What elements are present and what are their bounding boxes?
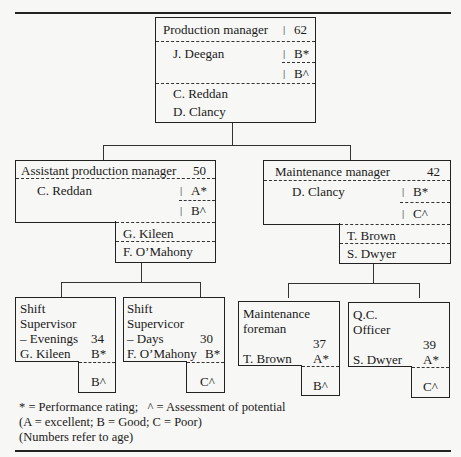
position-title-line: foreman bbox=[243, 321, 286, 336]
performance-rating: B* bbox=[91, 346, 106, 361]
position-title-line: Q.C. bbox=[353, 307, 378, 322]
connector bbox=[373, 264, 374, 283]
performance-rating: A* bbox=[313, 351, 329, 366]
performance-rating: B* bbox=[413, 184, 428, 199]
age: 34 bbox=[91, 331, 104, 346]
performance-rating: A* bbox=[191, 183, 207, 198]
connector bbox=[232, 123, 233, 146]
position-title-line: Maintenance bbox=[243, 306, 310, 321]
incumbent-name: D. Clancy bbox=[292, 184, 345, 199]
age: 30 bbox=[200, 331, 213, 346]
position-title-line: Supervisor bbox=[20, 316, 76, 331]
position-title-line: Shift bbox=[20, 301, 45, 316]
incumbent-name: T. Brown bbox=[243, 351, 292, 366]
age: 42 bbox=[427, 164, 440, 179]
connector bbox=[103, 145, 104, 161]
legend-scale: (A = excellent; B = Good; C = Poor) bbox=[19, 415, 202, 430]
position-title-line: – Days bbox=[127, 331, 163, 346]
successor-name: D. Clancy bbox=[173, 104, 226, 119]
potential-rating: B^ bbox=[191, 203, 206, 218]
connector bbox=[288, 283, 289, 298]
bottom-rule bbox=[15, 450, 451, 452]
age: 50 bbox=[193, 163, 206, 178]
successor-name: G. Kileen bbox=[123, 226, 174, 241]
position-title: Production manager bbox=[163, 22, 268, 37]
legend-symbols: * = Performance rating; ^ = Assessment o… bbox=[19, 400, 285, 415]
connector bbox=[350, 145, 351, 161]
position-title-line: Shift bbox=[127, 301, 152, 316]
age: 39 bbox=[423, 337, 436, 352]
position-title-line: – Evenings bbox=[20, 331, 78, 346]
age: 62 bbox=[294, 22, 307, 37]
connector bbox=[200, 282, 201, 298]
potential-rating: C^ bbox=[423, 379, 438, 394]
separator: | bbox=[180, 203, 182, 218]
position-title: Assistant production manager bbox=[21, 163, 176, 178]
incumbent-name: F. O’Mahony bbox=[127, 346, 197, 361]
position-title: Maintenance manager bbox=[275, 164, 390, 179]
incumbent-name: G. Kileen bbox=[20, 346, 71, 361]
incumbent-name: C. Reddan bbox=[37, 183, 92, 198]
successor-name: T. Brown bbox=[347, 228, 396, 243]
potential-rating: C^ bbox=[200, 374, 215, 389]
connector bbox=[288, 283, 420, 284]
performance-rating: A* bbox=[423, 352, 439, 367]
separator: | bbox=[180, 183, 182, 198]
potential-rating: B^ bbox=[91, 374, 106, 389]
successor-name: F. O’Mahony bbox=[123, 244, 193, 259]
successor-name: C. Reddan bbox=[173, 86, 228, 101]
position-title-line: Officer bbox=[353, 322, 390, 337]
age: 37 bbox=[313, 336, 326, 351]
position-title-line: Supervicor bbox=[127, 316, 184, 331]
connector bbox=[141, 263, 142, 282]
separator: | bbox=[402, 184, 404, 199]
connector bbox=[61, 282, 201, 283]
performance-rating: B* bbox=[294, 46, 309, 61]
incumbent-name: S. Dwyer bbox=[353, 352, 402, 367]
connector bbox=[103, 145, 351, 146]
performance-rating: B* bbox=[205, 346, 220, 361]
potential-rating: B^ bbox=[294, 66, 309, 81]
legend-note: (Numbers refer to age) bbox=[19, 430, 133, 445]
connector bbox=[419, 283, 420, 298]
potential-rating: C^ bbox=[413, 206, 428, 221]
incumbent-name: J. Deegan bbox=[173, 46, 224, 61]
potential-rating: B^ bbox=[313, 378, 328, 393]
separator: | bbox=[402, 206, 404, 221]
connector bbox=[61, 282, 62, 298]
successor-name: S. Dwyer bbox=[347, 246, 396, 261]
separator: | bbox=[283, 66, 285, 81]
separator: | bbox=[283, 22, 285, 37]
separator: | bbox=[283, 46, 285, 61]
top-rule bbox=[15, 12, 451, 14]
